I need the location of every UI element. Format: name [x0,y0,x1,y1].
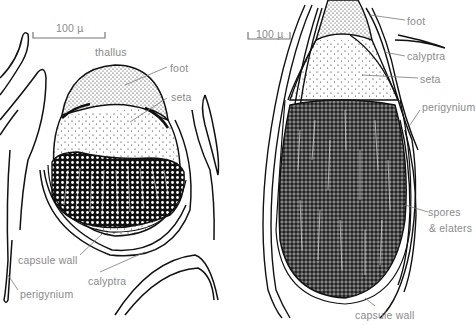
label-right-foot: foot [407,15,425,27]
label-left-seta: seta [171,91,192,103]
right-panel-drawing [248,0,445,318]
left-panel-drawing [0,32,219,315]
right-scale-bar-label: 100 µ [256,28,284,40]
label-left-foot: foot [170,62,188,74]
label-left-calyptra: calyptra [88,275,126,287]
label-right-seta: seta [420,73,441,85]
label-right-calyptra: calyptra [407,50,445,62]
label-right-perigynium: perigynium [422,101,475,113]
label-spores: spores [428,206,461,218]
left-scale-bar-label: 100 µ [56,22,84,34]
right-capsule-spores [279,100,406,298]
label-thallus: thallus [95,46,127,58]
diagram-canvas [0,0,476,325]
label-elaters: & elaters [429,222,472,234]
label-left-capsule-wall: capsule wall [18,254,78,266]
label-left-perigynium: perigynium [20,288,73,300]
right-foot [316,0,372,40]
label-right-capsule-wall: capsule wall [355,309,415,321]
left-capsule-spores [52,152,184,228]
